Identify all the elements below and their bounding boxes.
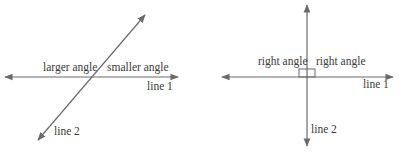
left-line-1-label: line 1 bbox=[147, 80, 173, 92]
right-diagram: right angle right angle line 1 line 2 bbox=[222, 5, 393, 146]
left-diagram: larger angle smaller angle line 1 line 2 bbox=[5, 15, 178, 140]
diagram-svg: larger angle smaller angle line 1 line 2… bbox=[0, 0, 399, 153]
right-angle-right-label: right angle bbox=[316, 55, 366, 68]
right-line-2-label: line 2 bbox=[311, 123, 337, 135]
angle-diagrams: larger angle smaller angle line 1 line 2… bbox=[0, 0, 399, 153]
right-angle-left-label: right angle bbox=[258, 55, 308, 68]
smaller-angle-label: smaller angle bbox=[107, 61, 169, 74]
right-line-1-label: line 1 bbox=[363, 78, 389, 90]
left-line-2-label: line 2 bbox=[54, 125, 80, 137]
larger-angle-label: larger angle bbox=[43, 61, 97, 74]
